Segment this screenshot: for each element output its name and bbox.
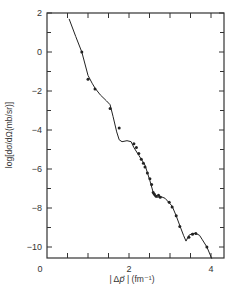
x-tick-label: 4: [208, 264, 213, 274]
data-point: [144, 166, 147, 169]
x-tick-label: 2: [126, 264, 131, 274]
fit-curve: [69, 19, 212, 259]
y-tick-label: −4: [32, 125, 42, 135]
x-axis-label-suffix: | (fm⁻¹): [125, 274, 155, 284]
y-tick-label: −10: [27, 242, 42, 252]
y-tick-label: 2: [37, 8, 42, 18]
data-point: [118, 127, 121, 130]
data-points: [80, 51, 208, 249]
y-tick-label: −6: [32, 164, 42, 174]
cross-section-chart: 20−2−4−6−8−10024 log[dσ/dΩ(mb/sr)] | Δp⃗…: [0, 0, 235, 298]
data-point: [168, 201, 171, 204]
data-point: [148, 177, 151, 180]
data-point: [187, 236, 190, 239]
x-tick-label: 0: [37, 264, 42, 274]
data-point: [150, 183, 153, 186]
data-point: [191, 233, 194, 236]
data-point: [205, 246, 208, 249]
x-axis-label: | Δp⃗ | (fm⁻¹): [109, 274, 154, 284]
data-point: [142, 162, 145, 165]
y-tick-label: −2: [32, 86, 42, 96]
y-tick-label: 0: [37, 47, 42, 57]
data-point: [159, 196, 162, 199]
y-axis-label: log[dσ/dΩ(mb/sr)]: [4, 102, 14, 168]
data-point: [194, 232, 197, 235]
data-point: [94, 88, 97, 91]
data-point: [80, 51, 83, 54]
data-point: [109, 107, 112, 110]
data-point: [178, 225, 181, 228]
data-point: [135, 146, 138, 149]
data-point: [146, 171, 149, 174]
axis-ticks: [47, 13, 224, 258]
data-point: [175, 214, 178, 217]
data-point: [140, 158, 143, 161]
data-point: [87, 78, 90, 81]
y-tick-label: −8: [32, 203, 42, 213]
data-point: [132, 142, 135, 145]
data-point: [137, 152, 140, 155]
data-point: [171, 206, 174, 209]
x-axis-label-prefix: | Δ: [109, 274, 119, 284]
plot-frame: [47, 13, 224, 258]
